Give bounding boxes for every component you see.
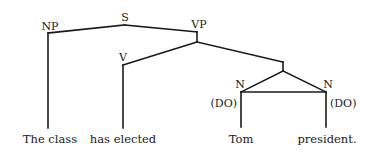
node-np: NP (41, 20, 59, 33)
edge-s-np (48, 25, 125, 33)
edge-vp-v (123, 42, 197, 65)
edge-objnode-n-right (283, 71, 326, 92)
node-n-left: N (235, 78, 245, 91)
edge-vp-objnode (197, 42, 283, 62)
syntax-tree-diagram: S NP VP V N N (DO) (DO) The class has el… (0, 0, 375, 157)
edge-objnode-n-left (241, 71, 283, 92)
node-n-right: N (323, 78, 333, 91)
label-do-right: (DO) (330, 97, 356, 110)
node-s: S (121, 11, 129, 24)
edge-s-vp (125, 25, 197, 32)
node-vp: VP (190, 18, 207, 31)
word-has-elected: has elected (90, 132, 157, 146)
word-president: president. (297, 132, 356, 146)
tree-edges (48, 25, 326, 128)
node-v: V (118, 51, 128, 64)
word-tom: Tom (229, 132, 254, 146)
word-the-class: The class (23, 132, 77, 146)
label-do-left: (DO) (211, 97, 237, 110)
